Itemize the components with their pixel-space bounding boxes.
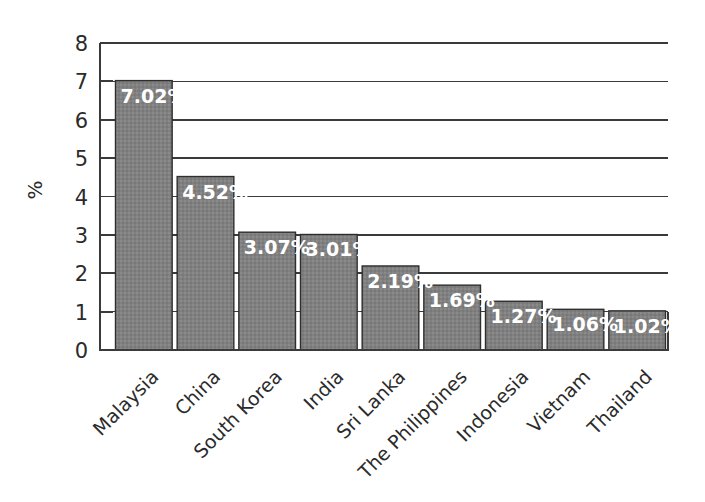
y-tick-label: 4 bbox=[75, 186, 88, 210]
y-tick-label: 3 bbox=[75, 224, 88, 248]
bar-chart: 012345678 7.02%4.52%3.07%3.01%2.19%1.69%… bbox=[0, 0, 705, 502]
y-axis-title: % bbox=[23, 180, 47, 199]
y-tick-label: 2 bbox=[75, 262, 88, 286]
bar-value-label: 4.52% bbox=[182, 181, 248, 203]
y-tick-label: 0 bbox=[75, 339, 88, 363]
bar-value-label: 1.06% bbox=[552, 313, 618, 335]
bar-value-label: 7.02% bbox=[121, 85, 187, 107]
bar-value-label: 2.19% bbox=[367, 270, 433, 292]
y-tick-labels-group: 012345678 bbox=[75, 32, 88, 363]
y-tick-label: 7 bbox=[75, 70, 88, 94]
y-tick-label: 8 bbox=[75, 32, 88, 56]
bar-value-label: 1.69% bbox=[429, 289, 495, 311]
bar-value-label: 1.02% bbox=[614, 315, 680, 337]
bar bbox=[116, 81, 173, 350]
chart-canvas: 012345678 7.02%4.52%3.07%3.01%2.19%1.69%… bbox=[0, 0, 705, 502]
y-tick-label: 5 bbox=[75, 147, 88, 171]
bar-value-label: 1.27% bbox=[491, 305, 557, 327]
bar-value-label: 3.07% bbox=[244, 236, 310, 258]
bar bbox=[177, 177, 234, 350]
y-tick-label: 6 bbox=[75, 109, 88, 133]
y-tick-label: 1 bbox=[75, 301, 88, 325]
bar-value-label: 3.01% bbox=[306, 238, 372, 260]
